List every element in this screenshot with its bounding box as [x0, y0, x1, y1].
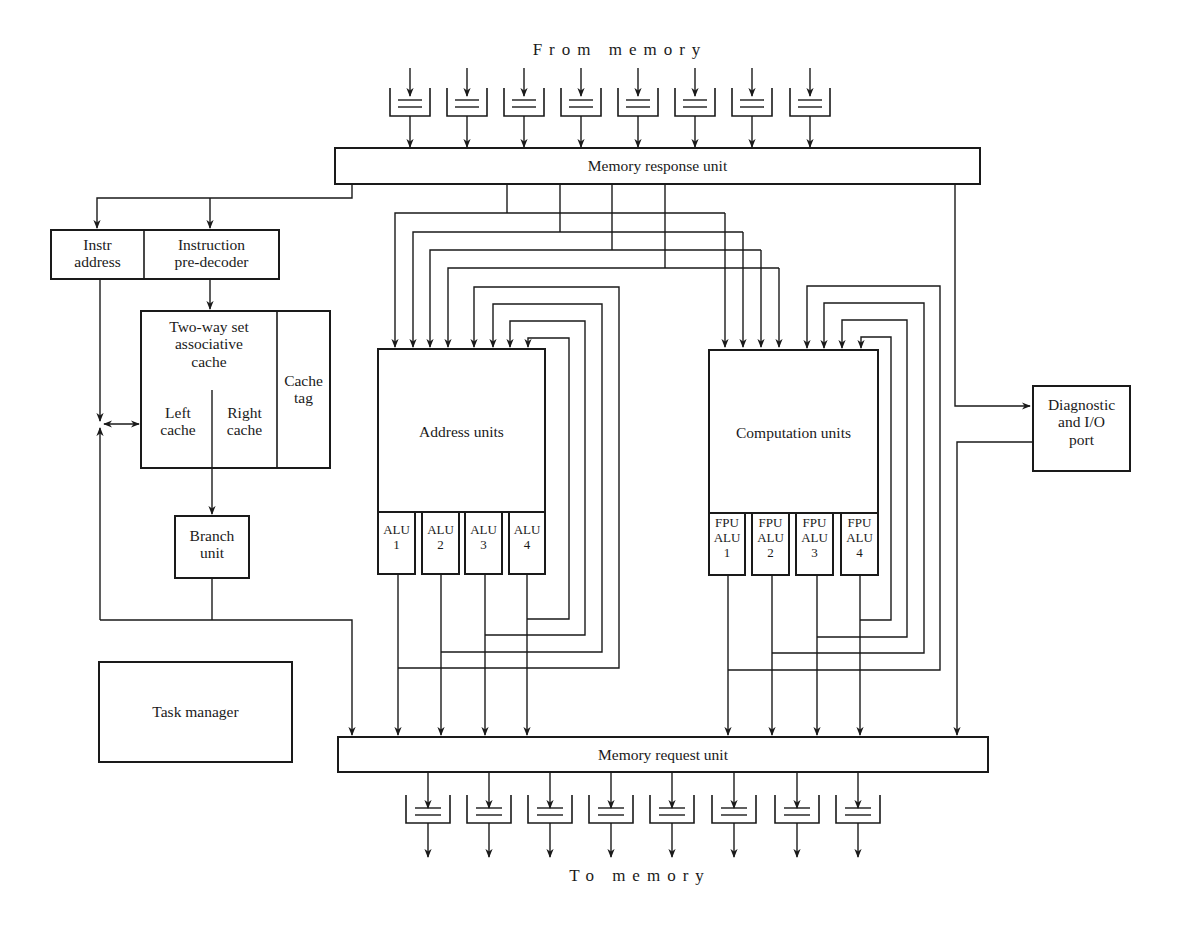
input-queue	[447, 68, 487, 147]
alu-1-line2: 1	[378, 538, 415, 553]
input-queue	[504, 68, 544, 147]
fpu-alu-1: FPU ALU 1	[709, 516, 745, 561]
alu-1: ALU 1	[378, 523, 415, 553]
fpu-4-line2: ALU	[841, 531, 878, 546]
output-queue	[406, 772, 450, 857]
output-queues	[406, 772, 880, 857]
fpu-1-line2: ALU	[709, 531, 745, 546]
fpu-4-line1: FPU	[841, 516, 878, 531]
fpu-4-line3: 4	[841, 546, 878, 561]
fpu-1-line3: 1	[709, 546, 745, 561]
instr-address-line1: Instr	[51, 236, 144, 253]
fpu-2-line2: ALU	[752, 531, 789, 546]
computation-units-label: Computation units	[709, 424, 878, 441]
input-queue	[561, 68, 601, 147]
fpu-2-line1: FPU	[752, 516, 789, 531]
alu-2-line2: 2	[422, 538, 459, 553]
alu-3-line2: 3	[465, 538, 502, 553]
fpu-alu-3: FPU ALU 3	[796, 516, 833, 561]
left-cache-line1: Left	[145, 404, 211, 421]
output-queue	[712, 772, 756, 857]
fpu-3-line3: 3	[796, 546, 833, 561]
address-units-label: Address units	[378, 423, 545, 440]
fpu-3-line2: ALU	[796, 531, 833, 546]
alu-2: ALU 2	[422, 523, 459, 553]
right-cache: Right cache	[212, 404, 277, 439]
diagnostic-line1: Diagnostic	[1033, 396, 1130, 413]
architecture-diagram	[0, 0, 1182, 925]
alu-1-line1: ALU	[378, 523, 415, 538]
cache-tag: Cache tag	[277, 372, 330, 407]
from-memory-label: From memory	[480, 40, 760, 59]
branch-unit: Branch unit	[175, 527, 249, 562]
cache-title-line1: Two-way set	[141, 318, 277, 335]
diagnostic-line3: port	[1033, 431, 1130, 448]
diagnostic-port: Diagnostic and I/O port	[1033, 396, 1130, 448]
to-memory-label: To memory	[500, 866, 780, 885]
alu-4: ALU 4	[509, 523, 545, 553]
input-queue	[618, 68, 658, 147]
cache-tag-line2: tag	[277, 389, 330, 406]
fpu-alu-2: FPU ALU 2	[752, 516, 789, 561]
input-queue	[390, 68, 430, 147]
instruction-predecoder: Instruction pre-decoder	[144, 236, 279, 271]
alu-3-line1: ALU	[465, 523, 502, 538]
right-cache-line2: cache	[212, 421, 277, 438]
predecoder-line1: Instruction	[144, 236, 279, 253]
task-manager: Task manager	[99, 703, 292, 720]
instr-address: Instr address	[51, 236, 144, 271]
fpu-2-line3: 2	[752, 546, 789, 561]
right-cache-line1: Right	[212, 404, 277, 421]
alu-3: ALU 3	[465, 523, 502, 553]
output-queue	[650, 772, 694, 857]
output-queue	[528, 772, 572, 857]
alu-4-line1: ALU	[509, 523, 545, 538]
left-cache-line2: cache	[145, 421, 211, 438]
cache-title-line3: cache	[141, 353, 277, 370]
instr-address-line2: address	[51, 253, 144, 270]
output-queue	[836, 772, 880, 857]
cache-title: Two-way set associative cache	[141, 318, 277, 370]
diagnostic-line2: and I/O	[1033, 413, 1130, 430]
cache-title-line2: associative	[141, 335, 277, 352]
fpu-alu-4: FPU ALU 4	[841, 516, 878, 561]
branch-unit-line1: Branch	[175, 527, 249, 544]
fpu-1-line1: FPU	[709, 516, 745, 531]
input-queue	[732, 68, 772, 147]
memory-response-unit: Memory response unit	[335, 157, 980, 174]
output-queue	[467, 772, 511, 857]
input-queues	[390, 68, 830, 147]
input-queue	[675, 68, 715, 147]
output-queue	[775, 772, 819, 857]
memory-request-unit: Memory request unit	[338, 746, 988, 763]
predecoder-line2: pre-decoder	[144, 253, 279, 270]
cache-tag-line1: Cache	[277, 372, 330, 389]
alu-2-line1: ALU	[422, 523, 459, 538]
input-queue	[790, 68, 830, 147]
alu-4-line2: 4	[509, 538, 545, 553]
left-cache: Left cache	[145, 404, 211, 439]
output-queue	[589, 772, 633, 857]
fpu-3-line1: FPU	[796, 516, 833, 531]
branch-unit-line2: unit	[175, 544, 249, 561]
